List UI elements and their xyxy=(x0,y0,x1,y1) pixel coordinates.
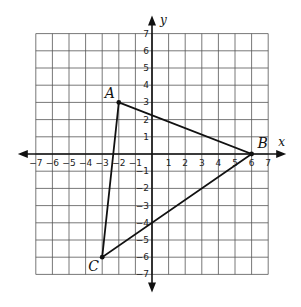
x-tick-label: 3 xyxy=(199,158,205,168)
arrow-left-icon xyxy=(18,150,28,158)
arrow-up-icon xyxy=(148,16,156,26)
arrow-down-icon xyxy=(148,282,156,292)
y-tick-label: −2 xyxy=(136,183,149,193)
vertex-label-a: A xyxy=(103,85,115,101)
y-tick-label: 2 xyxy=(143,115,149,125)
y-tick-label: −6 xyxy=(136,252,150,262)
y-tick-label: 4 xyxy=(143,80,149,90)
x-tick-label: −7 xyxy=(29,158,42,168)
triangle-abc: ABC xyxy=(88,85,268,274)
arrow-right-icon xyxy=(276,150,286,158)
x-tick-label: 1 xyxy=(166,158,172,168)
y-tick-label: 6 xyxy=(143,46,149,56)
y-tick-label: 5 xyxy=(143,63,149,73)
y-tick-label: −5 xyxy=(136,235,149,245)
y-tick-label: 3 xyxy=(143,97,149,107)
vertex-c xyxy=(100,255,105,260)
x-tick-label: 6 xyxy=(249,158,255,168)
vertex-b xyxy=(249,152,254,157)
x-tick-label: −4 xyxy=(79,158,93,168)
x-tick-label: −3 xyxy=(96,158,109,168)
x-tick-label: 7 xyxy=(265,158,271,168)
y-tick-label: 7 xyxy=(143,29,149,39)
vertex-label-c: C xyxy=(88,258,99,274)
x-axis-label: x xyxy=(278,135,285,149)
y-tick-label: 1 xyxy=(143,132,149,142)
x-tick-label: −6 xyxy=(46,158,60,168)
x-tick-label: −5 xyxy=(62,158,75,168)
x-tick-label: 2 xyxy=(182,158,188,168)
vertex-label-b: B xyxy=(257,135,268,151)
coordinate-plane: xy−7−6−5−4−3−2−112345677654321−1−2−3−4−5… xyxy=(0,0,301,307)
y-tick-label: −7 xyxy=(136,269,149,279)
y-tick-label: −1 xyxy=(136,166,149,176)
vertex-a xyxy=(116,100,121,105)
x-tick-label: −2 xyxy=(112,158,125,168)
y-axis-label: y xyxy=(159,13,167,27)
x-tick-label: 4 xyxy=(216,158,222,168)
y-tick-label: −3 xyxy=(136,201,149,211)
